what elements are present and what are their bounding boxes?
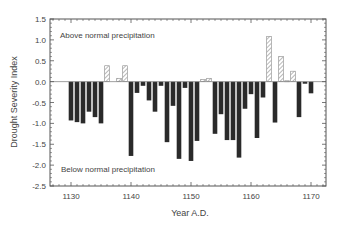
negative-bar xyxy=(255,82,260,138)
negative-bar xyxy=(231,82,236,140)
negative-bar xyxy=(75,82,80,122)
negative-bar xyxy=(273,82,278,123)
positive-bar xyxy=(117,78,122,81)
negative-bar xyxy=(177,82,182,159)
negative-bar xyxy=(87,82,92,112)
y-tick-label: 1.0 xyxy=(35,36,47,45)
x-tick-label: 1140 xyxy=(122,192,140,201)
negative-bar xyxy=(243,82,248,109)
negative-bar xyxy=(189,82,194,161)
negative-bar xyxy=(297,82,302,117)
y-tick-label: -2.0 xyxy=(32,161,46,170)
negative-bar xyxy=(69,82,74,121)
negative-bar xyxy=(165,82,170,143)
x-tick-label: 1130 xyxy=(62,192,80,201)
negative-bar xyxy=(213,82,218,134)
negative-bar xyxy=(225,82,230,140)
positive-bar xyxy=(105,66,110,82)
y-tick-label: -0.5 xyxy=(32,99,46,108)
negative-bar xyxy=(159,82,164,86)
negative-bar xyxy=(93,82,98,117)
negative-bar xyxy=(141,82,146,86)
positive-bar xyxy=(123,66,128,82)
y-tick-label: -1.5 xyxy=(32,140,46,149)
plot-frame xyxy=(50,19,326,186)
y-tick-label: 0.0 xyxy=(35,78,47,87)
positive-bar xyxy=(267,37,272,82)
negative-bar xyxy=(237,82,242,158)
x-tick-label: 1150 xyxy=(182,192,200,201)
y-tick-label: 0.5 xyxy=(35,57,47,66)
negative-bar xyxy=(153,82,158,112)
x-axis-label: Year A.D. xyxy=(171,208,209,218)
negative-bar xyxy=(309,82,314,94)
x-tick-label: 1170 xyxy=(302,192,320,201)
bar-series xyxy=(69,37,314,161)
negative-bar xyxy=(183,82,188,88)
negative-bar xyxy=(219,82,224,115)
y-tick-label: -2.5 xyxy=(32,182,46,191)
negative-bar xyxy=(147,82,152,101)
positive-bar xyxy=(279,57,284,82)
drought-severity-chart: 1.51.00.50.0-0.5-1.0-1.5-2.0-2.5 1130114… xyxy=(0,0,340,231)
annotation-below-normal: Below normal precipitation xyxy=(61,165,155,174)
y-axis-label: Drought Severity Index xyxy=(9,56,19,148)
x-tick-label: 1160 xyxy=(242,192,260,201)
annotation-above-normal: Above normal precipitation xyxy=(60,31,155,40)
negative-bar xyxy=(135,82,140,93)
y-tick-label: 1.5 xyxy=(35,15,47,24)
positive-bar xyxy=(291,71,296,81)
negative-bar xyxy=(195,82,200,141)
negative-bar xyxy=(249,82,254,95)
negative-bar xyxy=(171,82,176,106)
negative-bar xyxy=(81,82,86,124)
positive-bar xyxy=(207,78,212,81)
negative-bar xyxy=(99,82,104,124)
negative-bar xyxy=(261,82,266,98)
y-tick-label: -1.0 xyxy=(32,119,46,128)
negative-bar xyxy=(129,82,134,156)
